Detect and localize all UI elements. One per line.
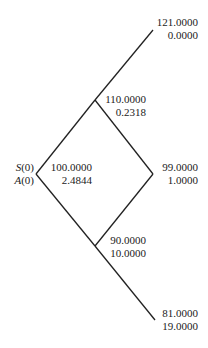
node-root: 100.0000 2.4844 (44, 161, 92, 187)
root-side-labels: S(0) A(0) (4, 161, 34, 187)
node-price: 110.0000 (98, 93, 146, 106)
node-value: 1.0000 (150, 174, 198, 187)
a0-label: A(0) (4, 174, 34, 187)
node-price: 121.0000 (150, 16, 198, 29)
node-value: 2.4844 (44, 174, 92, 187)
node-value: 19.0000 (150, 320, 198, 333)
node-uu: 121.0000 0.0000 (150, 16, 198, 42)
node-dd: 81.0000 19.0000 (150, 307, 198, 333)
node-ud: 99.0000 1.0000 (150, 161, 198, 187)
node-value: 0.0000 (150, 29, 198, 42)
node-price: 99.0000 (150, 161, 198, 174)
s0-label: S(0) (4, 161, 34, 174)
edge-up-uu (95, 30, 153, 100)
node-value: 0.2318 (98, 106, 146, 119)
node-price: 100.0000 (44, 161, 92, 174)
node-value: 10.0000 (98, 247, 146, 260)
node-price: 90.0000 (98, 234, 146, 247)
node-up: 110.0000 0.2318 (98, 93, 146, 119)
node-price: 81.0000 (150, 307, 198, 320)
node-down: 90.0000 10.0000 (98, 234, 146, 260)
